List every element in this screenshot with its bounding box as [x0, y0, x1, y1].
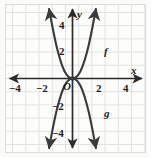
graph-figure: −4 −2 2 4 4 2 −2 −4 y x O f g: [0, 0, 151, 158]
coordinate-plane: −4 −2 2 4 4 2 −2 −4 y x O f g: [5, 4, 146, 153]
y-tick-2: 2: [59, 46, 65, 57]
x-axis-label: x: [131, 65, 137, 76]
origin-label: O: [63, 81, 71, 92]
x-tick-neg2: −2: [36, 83, 48, 94]
y-tick-4: 4: [59, 20, 65, 31]
curve-label-g: g: [104, 108, 110, 119]
y-axis-label: y: [77, 9, 82, 20]
x-tick-2: 2: [96, 83, 102, 94]
y-tick-neg2: −2: [52, 101, 64, 112]
y-tick-neg4: −4: [52, 128, 64, 139]
x-tick-4: 4: [123, 83, 129, 94]
x-tick-neg4: −4: [9, 83, 21, 94]
curve-label-f: f: [104, 46, 108, 57]
